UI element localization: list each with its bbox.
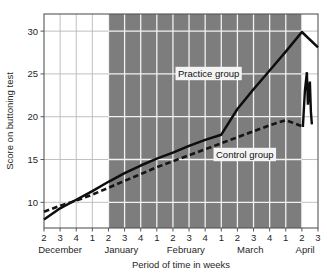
x-tick-label: 1 <box>154 232 159 243</box>
x-tick-label: 2 <box>170 232 175 243</box>
x-axis-month-label: March <box>237 244 263 255</box>
series-annotation: Practice group <box>176 67 242 80</box>
x-tick-label: 3 <box>122 232 127 243</box>
series-annotation-label: Practice group <box>178 68 239 79</box>
x-tick-label: 2 <box>235 232 240 243</box>
y-tick-label: 20 <box>27 111 38 122</box>
series-annotation: Control group <box>214 148 277 161</box>
x-tick-label: 3 <box>315 232 320 243</box>
y-tick-label: 25 <box>27 68 38 79</box>
x-tick-label: 1 <box>90 232 95 243</box>
x-tick-label: 2 <box>299 232 304 243</box>
x-tick-label: 2 <box>41 232 46 243</box>
x-axis-title: Period of time in weeks <box>132 259 230 270</box>
x-tick-label: 3 <box>186 232 191 243</box>
line-chart: 1015202530 234123412341234123 DecemberJa… <box>0 0 329 275</box>
x-tick-label: 4 <box>203 232 208 243</box>
x-axis-month-labels: DecemberJanuaryFebruaryMarchApril <box>38 244 314 255</box>
x-tick-label: 4 <box>267 232 272 243</box>
x-tick-label: 2 <box>106 232 111 243</box>
x-axis-month-label: April <box>296 244 315 255</box>
y-tick-label: 15 <box>27 154 38 165</box>
chart-figure: 1015202530 234123412341234123 DecemberJa… <box>0 0 329 275</box>
x-tick-label: 1 <box>283 232 288 243</box>
series-annotation-label: Control group <box>216 149 274 160</box>
x-axis-month-label: December <box>38 244 82 255</box>
x-axis-month-label: January <box>104 244 138 255</box>
y-tick-label: 30 <box>27 26 38 37</box>
x-axis-ticks: 234123412341234123 <box>41 228 320 243</box>
x-tick-label: 4 <box>74 232 79 243</box>
y-axis-ticks: 1015202530 <box>27 26 44 208</box>
x-tick-label: 4 <box>138 232 143 243</box>
x-tick-label: 1 <box>219 232 224 243</box>
y-axis-title: Score on buttoning test <box>4 72 15 170</box>
y-tick-label: 10 <box>27 197 38 208</box>
x-tick-label: 3 <box>57 232 62 243</box>
x-axis-month-label: February <box>167 244 205 255</box>
x-tick-label: 3 <box>251 232 256 243</box>
